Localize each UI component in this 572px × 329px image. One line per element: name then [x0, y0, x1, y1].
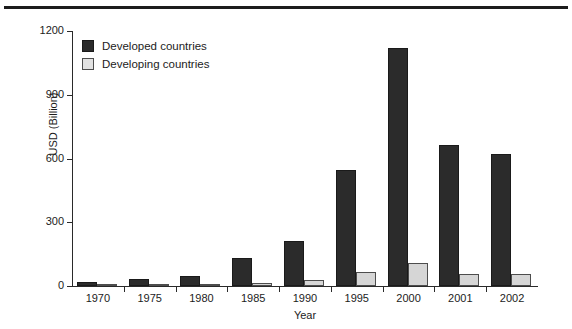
legend-label-developing: Developing countries	[102, 58, 209, 70]
bar-developed-1975	[129, 279, 149, 286]
bar-developing-2000	[408, 263, 428, 286]
header-rule	[4, 6, 568, 9]
y-tick-label-1200: 1200	[22, 24, 64, 36]
bar-developing-1990	[304, 280, 324, 286]
y-tick-1200	[67, 31, 73, 32]
y-tick-label-0: 0	[22, 279, 64, 291]
dark-square-swatch-icon	[82, 40, 94, 52]
y-tick-label-600: 600	[22, 152, 64, 164]
x-tick-label-1970: 1970	[72, 292, 124, 304]
bar-developing-2002	[511, 274, 531, 286]
bar-developing-1985	[252, 283, 272, 286]
bar-developing-2001	[459, 274, 479, 286]
legend-item-developing: Developing countries	[82, 56, 209, 71]
bar-developed-1980	[180, 276, 200, 286]
bar-developed-2002	[491, 154, 511, 286]
bar-developing-1995	[356, 272, 376, 286]
y-tick-300	[67, 222, 73, 223]
legend-item-developed: Developed countries	[82, 38, 209, 53]
x-tick-label-1975: 1975	[124, 292, 176, 304]
x-axis-title: Year	[275, 309, 335, 321]
x-tick-label-1990: 1990	[279, 292, 331, 304]
x-tick-label-2000: 2000	[383, 292, 435, 304]
x-tick-label-1995: 1995	[331, 292, 383, 304]
x-tick-label-1985: 1985	[227, 292, 279, 304]
light-square-swatch-icon	[82, 58, 94, 70]
y-tick-600	[67, 159, 73, 160]
x-tick-label-2001: 2001	[434, 292, 486, 304]
x-tick-label-1980: 1980	[175, 292, 227, 304]
bar-developing-1980	[200, 284, 220, 286]
bar-developed-1995	[336, 170, 356, 286]
bar-developed-2001	[439, 145, 459, 286]
legend-label-developed: Developed countries	[102, 40, 207, 52]
bar-developing-1970	[97, 284, 117, 286]
y-axis-title-text: USD (Billion)	[47, 93, 59, 156]
chart-legend: Developed countries Developing countries	[82, 38, 209, 74]
bar-developed-1970	[77, 282, 97, 286]
x-tick-label-2002: 2002	[486, 292, 538, 304]
x-axis-title-text: Year	[294, 309, 316, 321]
bar-developed-2000	[388, 48, 408, 286]
y-tick-0	[67, 286, 73, 287]
bar-developed-1985	[232, 258, 252, 286]
y-tick-label-300: 300	[22, 215, 64, 227]
bar-developing-1975	[149, 284, 169, 286]
x-axis-line	[72, 286, 538, 287]
y-tick-label-900: 900	[22, 88, 64, 100]
bar-chart-figure: USD (Billion) 03006009001200 19701975198…	[0, 0, 572, 329]
bar-developed-1990	[284, 241, 304, 286]
y-tick-900	[67, 95, 73, 96]
